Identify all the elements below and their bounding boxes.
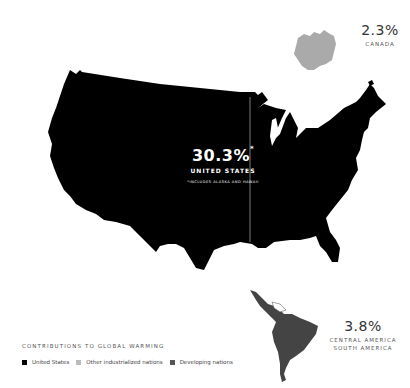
legend-label: United States — [32, 359, 69, 365]
island-shape — [368, 80, 374, 86]
canada-label: 2.3% CANADA — [350, 22, 410, 47]
canada-name: CANADA — [350, 41, 410, 47]
legend-label: Developing nations — [180, 359, 233, 365]
legend-items: United States Other industrialized natio… — [22, 359, 240, 365]
swatch-united-states — [22, 360, 27, 365]
united-states-footnote: *INCLUDES ALASKA AND HAWAII — [168, 180, 278, 184]
south-america-name: SOUTH AMERICA — [316, 344, 410, 352]
legend: CONTRIBUTIONS TO GLOBAL WARMING United S… — [22, 343, 240, 365]
united-states-label: 30.3%* UNITED STATES *INCLUDES ALASKA AN… — [168, 146, 278, 184]
central-america-name: CENTRAL AMERICA — [316, 336, 410, 344]
central-south-america-label: 3.8% CENTRAL AMERICA SOUTH AMERICA — [316, 318, 410, 352]
united-states-name: UNITED STATES — [168, 167, 278, 174]
united-states-percent: 30.3%* — [168, 146, 278, 165]
legend-item-united-states: United States — [22, 359, 69, 365]
legend-title: CONTRIBUTIONS TO GLOBAL WARMING — [22, 343, 240, 349]
legend-item-developing: Developing nations — [170, 359, 233, 365]
central-south-america-shape — [250, 290, 318, 382]
central-south-america-percent: 3.8% — [316, 318, 410, 334]
canada-percent: 2.3% — [350, 22, 410, 38]
legend-item-other-industrialized: Other industrialized nations — [76, 359, 162, 365]
legend-label: Other industrialized nations — [86, 359, 162, 365]
canada-shape — [294, 30, 336, 70]
swatch-developing — [170, 360, 175, 365]
swatch-other-industrialized — [76, 360, 81, 365]
